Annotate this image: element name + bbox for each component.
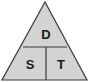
label-speed: S — [26, 57, 35, 72]
formula-triangle: D S T — [0, 0, 89, 82]
label-distance: D — [41, 27, 50, 42]
label-time: T — [57, 57, 65, 72]
